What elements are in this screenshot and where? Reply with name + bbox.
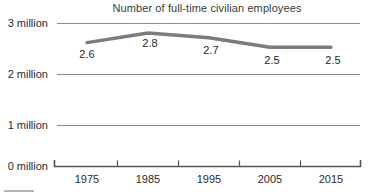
crop-artifact-mark — [4, 190, 34, 192]
x-tick-label-2005: 2005 — [240, 173, 300, 185]
x-tick-label-1995: 1995 — [179, 173, 239, 185]
x-axis-ticks — [118, 161, 301, 167]
x-tick-label-1985: 1985 — [118, 173, 178, 185]
data-value-label-1975: 2.6 — [67, 48, 107, 60]
x-axis-line — [55, 160, 361, 167]
plot-area — [0, 0, 368, 196]
chart-container: Number of full-time civilian employees 3… — [0, 0, 368, 196]
x-tick-label-2015: 2015 — [301, 173, 361, 185]
data-value-label-1985: 2.8 — [130, 37, 170, 49]
data-value-label-2015: 2.5 — [313, 54, 353, 66]
data-value-label-2005: 2.5 — [252, 54, 292, 66]
x-tick-label-1975: 1975 — [57, 173, 117, 185]
data-value-label-1995: 2.7 — [191, 44, 231, 56]
